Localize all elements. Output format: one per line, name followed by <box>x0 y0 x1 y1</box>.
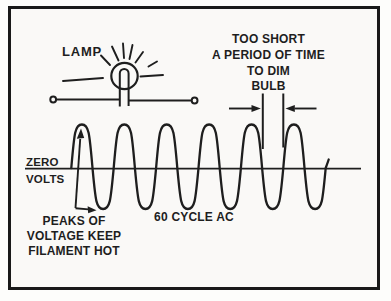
light-ray-icon <box>136 52 144 63</box>
marker-caption-line2: A PERIOD OF TIME <box>206 48 331 64</box>
marker-caption-line1: TOO SHORT <box>206 32 331 48</box>
figure-page: LAMP TOO SHORT A PERIOD OF TIME TO DIM B… <box>0 0 391 301</box>
peak-arrow-line <box>76 139 81 208</box>
lamp-symbol <box>50 63 197 107</box>
light-ray-icon <box>112 47 119 61</box>
lamp-bulb-icon <box>111 63 137 89</box>
peak-arrowhead-up-icon <box>77 129 84 139</box>
marker-caption-line4: BULB <box>206 79 331 95</box>
trough-arrow-line <box>76 208 89 209</box>
peaks-caption: PEAKS OF VOLTAGE KEEP FILAMENT HOT <box>19 214 129 260</box>
cycle-label: 60 CYCLE AC <box>151 210 237 226</box>
peaks-caption-line3: FILAMENT HOT <box>19 244 129 259</box>
light-ray-icon <box>130 45 133 59</box>
terminal-right-icon <box>192 98 198 104</box>
sine-wave <box>71 125 328 210</box>
lamp-label: LAMP <box>59 44 105 60</box>
marker-caption-line3: TO DIM <box>206 64 331 80</box>
zero-label: ZERO <box>26 155 59 171</box>
volts-label: VOLTS <box>26 172 64 188</box>
light-ray-icon <box>149 62 158 67</box>
terminal-left-icon <box>50 97 56 103</box>
peaks-caption-line1: PEAKS OF <box>19 214 129 229</box>
peaks-caption-line2: VOLTAGE KEEP <box>19 229 129 244</box>
interval-markers <box>263 94 284 150</box>
interval-arrowhead-left-icon <box>286 105 295 112</box>
light-ray-left-icon <box>63 78 103 81</box>
light-ray-right-icon <box>141 75 164 77</box>
trough-arrowhead-right-icon <box>88 206 97 213</box>
marker-caption: TOO SHORT A PERIOD OF TIME TO DIM BULB <box>206 32 331 95</box>
light-ray-icon <box>123 44 124 59</box>
interval-arrowhead-right-icon <box>252 105 261 112</box>
interval-arrows <box>229 105 317 112</box>
